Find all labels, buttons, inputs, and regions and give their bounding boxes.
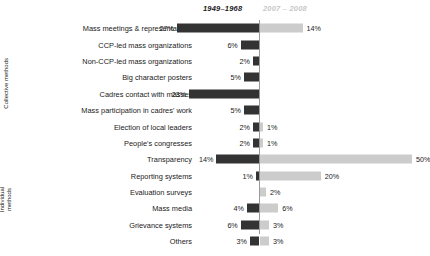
bar-area: 14%50% [0, 151, 419, 167]
bar-value-recent: 1% [267, 122, 277, 131]
bar-value-past: 2% [240, 138, 250, 147]
bar-value-past: 4% [233, 204, 243, 213]
bar-value-past: 5% [230, 106, 240, 115]
bar-recent [260, 237, 269, 246]
bar-past [189, 89, 259, 98]
bar-value-past: 14% [199, 155, 213, 164]
legend-label-past: 1949–1968 [203, 4, 242, 13]
bar-value-recent: 2% [270, 188, 280, 197]
legend-label-recent: 2007 – 2008 [263, 4, 307, 13]
bar-value-past: 3% [237, 237, 247, 246]
chart-row: Transparency14%50% [0, 151, 419, 167]
bar-past [253, 56, 259, 65]
bar-value-past: 2% [240, 122, 250, 131]
bar-past [177, 24, 259, 33]
bar-value-recent: 50% [416, 155, 430, 164]
bar-value-recent: 1% [267, 138, 277, 147]
chart-row: Election of local leaders2%1% [0, 118, 419, 134]
chart-row: Non-CCP-led mass organizations2% [0, 53, 419, 69]
bar-area: 5% [0, 102, 419, 118]
bar-past [256, 171, 259, 180]
bar-recent [260, 204, 278, 213]
bar-recent [260, 122, 263, 131]
bar-recent [260, 138, 263, 147]
bar-recent [260, 171, 321, 180]
bar-value-recent: 14% [307, 24, 321, 33]
bar-past [247, 204, 259, 213]
bar-area: 2%1% [0, 118, 419, 134]
bar-past [241, 40, 259, 49]
bar-past [216, 155, 259, 164]
bar-value-past: 1% [243, 171, 253, 180]
chart-row: Grievance systems6%3% [0, 217, 419, 233]
bar-value-recent: 3% [273, 237, 283, 246]
bar-value-past: 6% [227, 220, 237, 229]
bar-recent [260, 188, 266, 197]
bar-area: 2% [0, 53, 419, 69]
chart-row: Mass meetings & representatives27%14% [0, 20, 419, 36]
bar-value-past: 5% [230, 73, 240, 82]
chart-row: People's congresses2%1% [0, 135, 419, 151]
bar-value-recent: 6% [282, 204, 292, 213]
bar-area: 3%3% [0, 233, 419, 249]
chart-row: Others3%3% [0, 233, 419, 249]
chart-row: Mass participation in cadres' work5% [0, 102, 419, 118]
bar-area: 27%14% [0, 20, 419, 36]
bar-value-recent: 20% [325, 171, 339, 180]
bar-value-past: 27% [160, 24, 174, 33]
bar-value-past: 6% [227, 40, 237, 49]
bar-area: 1%20% [0, 168, 419, 184]
chart-row: Reporting systems1%20% [0, 168, 419, 184]
bar-value-past: 23% [172, 89, 186, 98]
bar-past [244, 106, 259, 115]
bar-area: 6% [0, 36, 419, 52]
bar-area: 2% [0, 184, 419, 200]
bar-area: 6%3% [0, 217, 419, 233]
chart-row: Big character posters5% [0, 69, 419, 85]
bar-area: 5% [0, 69, 419, 85]
chart-legend: 1949–1968 2007 – 2008 [0, 4, 419, 18]
bar-past [250, 237, 259, 246]
bar-past [253, 138, 259, 147]
bar-past [253, 122, 259, 131]
chart-row: Mass media4%6% [0, 200, 419, 216]
bar-value-past: 2% [240, 56, 250, 65]
chart-row: Evaluation surveys2% [0, 184, 419, 200]
bar-area: 4%6% [0, 200, 419, 216]
bar-recent [260, 220, 269, 229]
bar-value-recent: 3% [273, 220, 283, 229]
chart-rows: Mass meetings & representatives27%14%CCP… [0, 20, 419, 249]
bar-recent [260, 24, 303, 33]
bar-past [241, 220, 259, 229]
bar-recent [260, 155, 412, 164]
chart-row: Cadres contact with masses23% [0, 86, 419, 102]
bar-area: 2%1% [0, 135, 419, 151]
bar-past [244, 73, 259, 82]
bar-area: 23% [0, 86, 419, 102]
chart-row: CCP-led mass organizations6% [0, 36, 419, 52]
